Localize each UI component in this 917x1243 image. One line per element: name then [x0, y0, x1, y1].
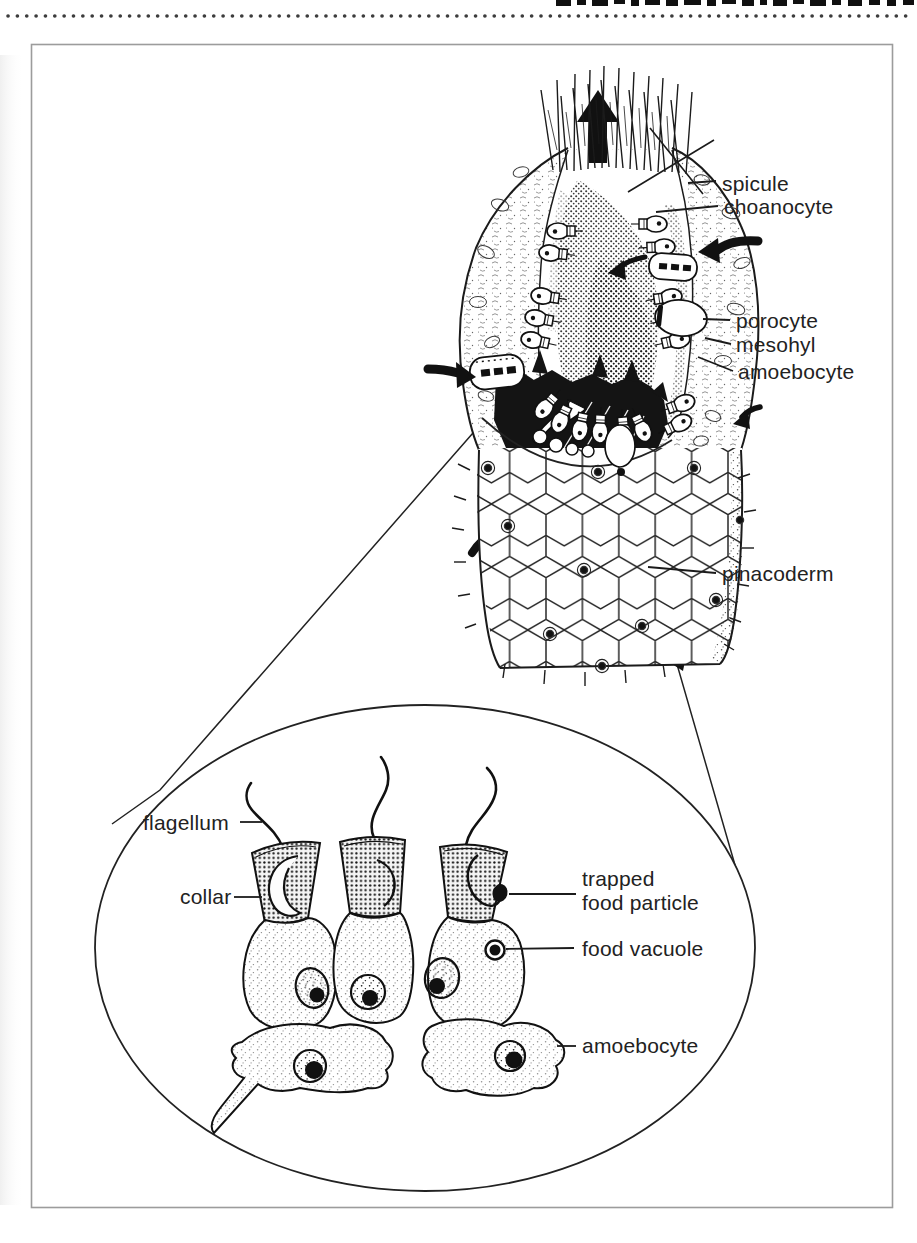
label-collar: collar [180, 885, 231, 908]
choanocyte-detail-bodies [243, 913, 524, 1031]
label-amoebocyte: amoebocyte [738, 360, 854, 383]
label-mesohyl: mesohyl [736, 333, 816, 356]
food-vacuole-detail [486, 941, 505, 960]
spicule-fringe [541, 66, 714, 194]
collar-detail-cells [252, 837, 507, 924]
porocyte-left [468, 353, 525, 390]
label-trapped-food-particle-line1: trapped [582, 867, 655, 890]
porocyte-right-upper [648, 252, 698, 281]
scanned-textbook-page: spicule choanocyte porocyte mesohyl amoe… [0, 0, 917, 1243]
label-food-vacuole: food vacuole [582, 937, 704, 960]
label-trapped-food-particle-line2: food particle [582, 891, 699, 914]
label-porocyte: porocyte [736, 309, 818, 332]
sponge-feeding-diagram: spicule choanocyte porocyte mesohyl amoe… [0, 0, 917, 1243]
label-spicule: spicule [722, 172, 789, 195]
page-left-margin-shading [0, 55, 24, 1205]
label-pinacoderm: pinacoderm [722, 562, 834, 585]
clipped-headline-fragments [556, 0, 914, 6]
label-flagellum: flagellum [143, 811, 229, 834]
pinacoderm-region [452, 418, 756, 686]
label-amoebocyte-inset: amoebocyte [582, 1034, 698, 1057]
label-choanocyte: choanocyte [724, 195, 833, 218]
